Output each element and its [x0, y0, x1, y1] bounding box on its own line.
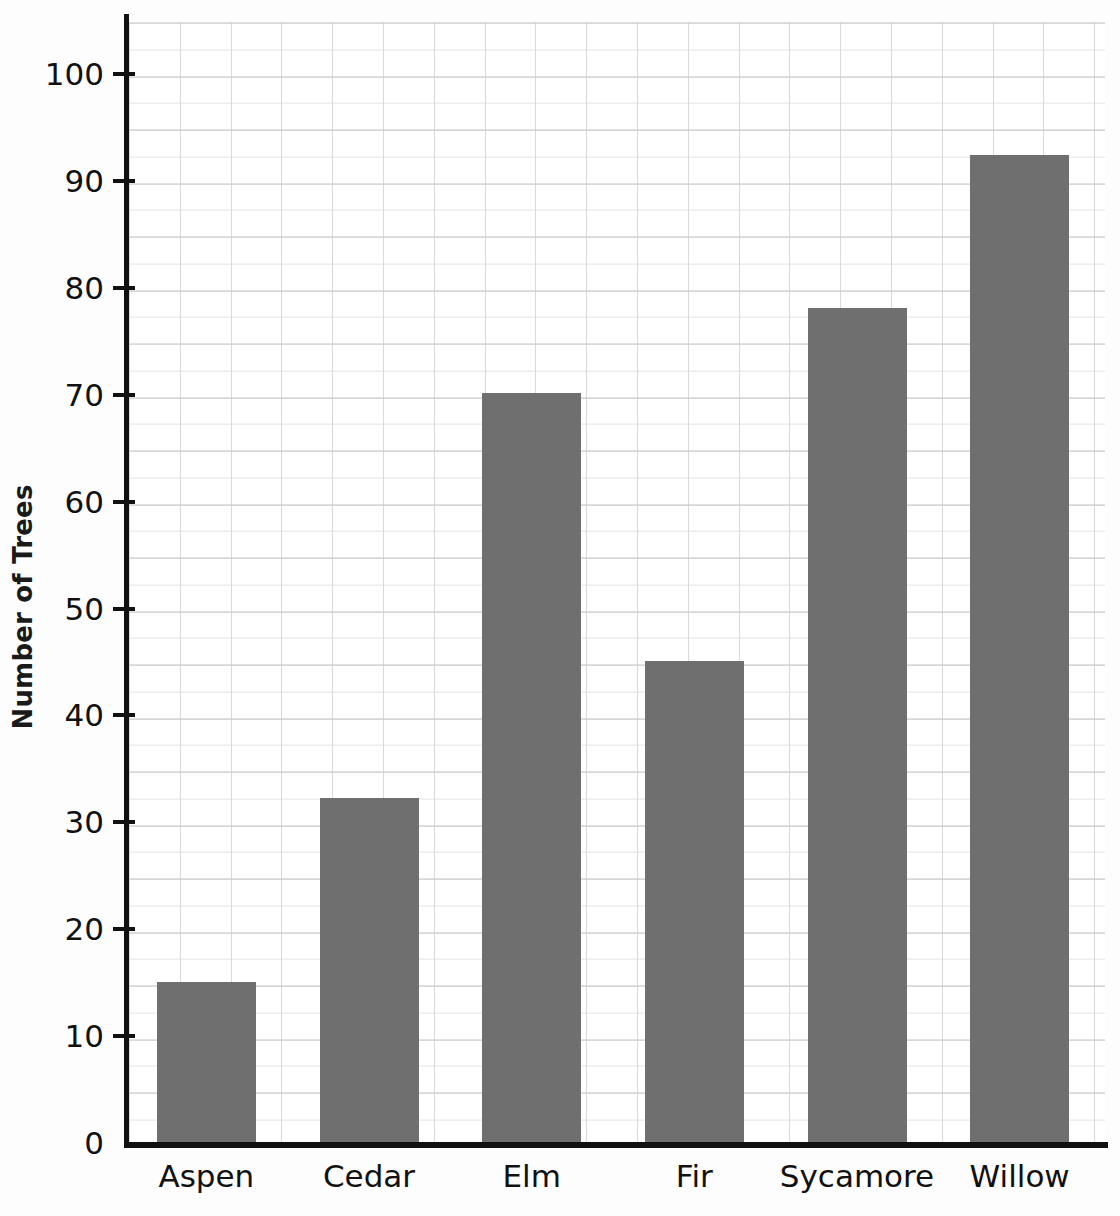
y-tick-mark: [113, 286, 135, 290]
x-tick-label: Fir: [676, 1158, 713, 1194]
y-tick-mark: [113, 713, 135, 717]
bar-chart-figure: Number of Trees 0102030405060708090100 A…: [0, 0, 1120, 1216]
y-tick-label: 30: [0, 804, 104, 840]
y-tick-label: 0: [0, 1125, 104, 1161]
y-tick-mark: [113, 820, 135, 824]
y-tick-label: 70: [0, 377, 104, 413]
x-tick-label: Elm: [502, 1158, 560, 1194]
plot-area: [129, 22, 1105, 1143]
y-tick-mark: [113, 72, 135, 76]
bar: [808, 308, 907, 1143]
y-tick-mark: [113, 500, 135, 504]
x-tick-label: Cedar: [323, 1158, 415, 1194]
y-tick-label: 90: [0, 163, 104, 199]
y-tick-label: 60: [0, 484, 104, 520]
y-tick-mark: [113, 1034, 135, 1038]
y-tick-label: 20: [0, 911, 104, 947]
bar: [320, 798, 419, 1143]
x-tick-label: Aspen: [158, 1158, 254, 1194]
y-tick-mark: [113, 927, 135, 931]
bar: [645, 661, 744, 1143]
x-tick-label: Willow: [970, 1158, 1070, 1194]
y-tick-mark: [113, 607, 135, 611]
y-axis-spine: [124, 14, 129, 1147]
y-tick-mark: [113, 393, 135, 397]
x-axis-spine: [124, 1142, 1108, 1148]
bar: [970, 155, 1069, 1143]
x-tick-label: Sycamore: [780, 1158, 934, 1194]
y-axis-tick-labels: 0102030405060708090100: [0, 0, 104, 1216]
bar: [482, 393, 581, 1143]
major-gridlines: [129, 22, 1105, 1143]
y-tick-label: 100: [0, 56, 104, 92]
y-tick-label: 40: [0, 697, 104, 733]
y-tick-label: 50: [0, 591, 104, 627]
bar: [157, 982, 256, 1143]
y-tick-label: 10: [0, 1018, 104, 1054]
y-tick-label: 80: [0, 270, 104, 306]
y-tick-mark: [113, 179, 135, 183]
